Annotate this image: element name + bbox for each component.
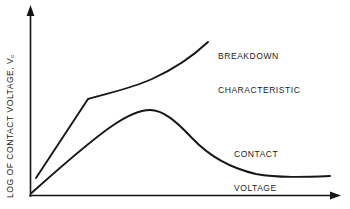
chart-figure: LOG OF CONTACT VOLTAGE, Vc BREAKDOWN CHA… <box>0 0 350 209</box>
curve-breakdown-characteristic <box>36 42 208 178</box>
y-axis-arrow-icon <box>27 5 35 16</box>
curve-contact-voltage <box>32 110 331 193</box>
x-axis-arrow-icon <box>330 192 341 200</box>
chart-plot-area <box>0 0 350 209</box>
